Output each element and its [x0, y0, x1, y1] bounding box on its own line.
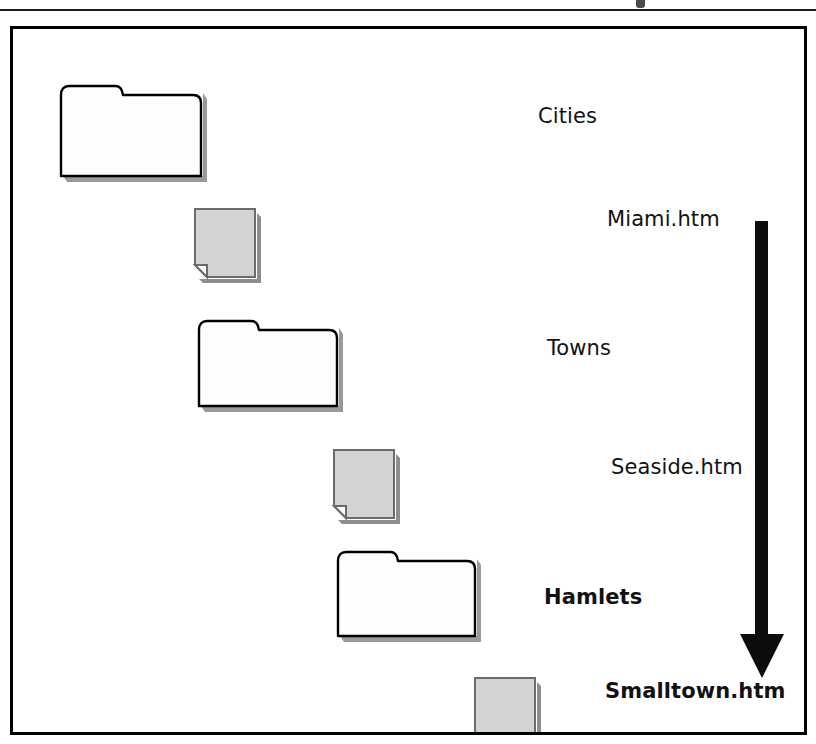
document-icon [193, 207, 263, 285]
folder-icon [57, 77, 213, 186]
label-towns: Towns [547, 336, 611, 360]
figure-canvas: Cities Miami.htm Towns [13, 29, 804, 732]
folder-icon [334, 546, 490, 646]
header-rule [0, 9, 816, 11]
page-root: Cities Miami.htm Towns [0, 0, 816, 744]
label-seaside-htm: Seaside.htm [611, 455, 743, 479]
document-icon [473, 676, 543, 732]
header-text-descender [636, 0, 645, 8]
label-miami-htm: Miami.htm [607, 207, 720, 231]
label-cities: Cities [538, 104, 597, 128]
folder-icon [195, 314, 351, 416]
document-icon [332, 448, 402, 526]
downward-flow-arrow [739, 221, 785, 685]
figure-frame: Cities Miami.htm Towns [10, 26, 807, 735]
label-hamlets: Hamlets [544, 585, 642, 609]
